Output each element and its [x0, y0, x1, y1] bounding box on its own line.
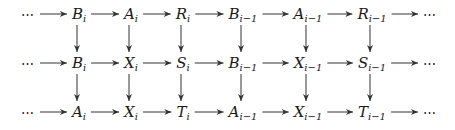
subscript: i [83, 13, 86, 24]
node-r-6: Ri−1 [357, 7, 386, 22]
node-b-1: Bi [72, 7, 86, 22]
subscript: i−1 [304, 111, 322, 122]
subscript: i [187, 13, 190, 24]
node-b-4: Bi−1 [229, 7, 258, 22]
node-a-5: Ai−1 [294, 7, 323, 22]
node-x-5: Xi−1 [294, 105, 323, 120]
ellipsis: ⋯ [423, 57, 437, 70]
commutative-diagram: ⋯BiAiRiBi−1Ai−1Ri−1⋯⋯BiXiSiBi−1Xi−1Si−1⋯… [0, 0, 455, 130]
subscript: i−1 [368, 111, 386, 122]
subscript: i [135, 62, 138, 73]
node-x-5: Xi−1 [294, 56, 323, 71]
node-r-3: Ri [176, 7, 191, 22]
node-a-4: Ai−1 [229, 105, 258, 120]
node-x-2: Xi [124, 105, 138, 120]
subscript: i [135, 111, 138, 122]
subscript: i [187, 62, 190, 73]
node-a-1: Ai [72, 105, 86, 120]
subscript: i−1 [368, 62, 386, 73]
node-s-6: Si−1 [358, 56, 386, 71]
ellipsis: ⋯ [423, 8, 437, 21]
node-a-2: Ai [124, 7, 138, 22]
subscript: i [135, 13, 138, 24]
subscript: i−1 [240, 62, 258, 73]
subscript: i [83, 111, 86, 122]
ellipsis: ⋯ [21, 8, 35, 21]
node-b-4: Bi−1 [229, 56, 258, 71]
subscript: i [186, 111, 189, 122]
subscript: i−1 [239, 111, 257, 122]
node-t-3: Ti [176, 105, 189, 120]
node-t-6: Ti−1 [358, 105, 386, 120]
node-x-2: Xi [124, 56, 138, 71]
node-s-3: Si [176, 56, 189, 71]
subscript: i−1 [369, 13, 387, 24]
node-b-1: Bi [72, 56, 86, 71]
subscript: i [83, 62, 86, 73]
ellipsis: ⋯ [21, 106, 35, 119]
ellipsis: ⋯ [423, 106, 437, 119]
subscript: i−1 [304, 62, 322, 73]
ellipsis: ⋯ [21, 57, 35, 70]
subscript: i−1 [240, 13, 258, 24]
subscript: i−1 [304, 13, 322, 24]
arrows-layer [0, 0, 455, 130]
